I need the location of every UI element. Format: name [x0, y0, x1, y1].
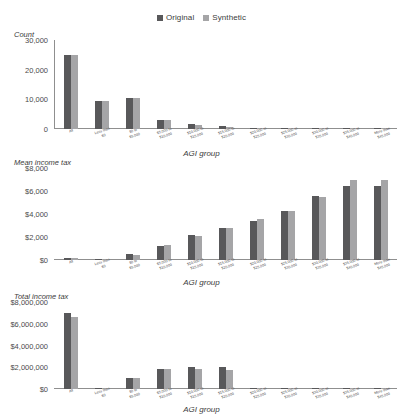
bar-group: [210, 302, 241, 389]
bar-group: [242, 302, 273, 389]
bar-group: [179, 40, 210, 129]
bar-original: [157, 369, 164, 389]
x-axis-tick-labels: AllLess than $0$0 to $5,000$5,000 to $10…: [55, 260, 397, 276]
bar-synthetic: [257, 219, 264, 260]
y-tick-label: $6,000,000: [10, 319, 48, 328]
y-tick-label: $4,000: [25, 210, 48, 219]
bar-group: [273, 302, 304, 389]
bar-group: [148, 40, 179, 129]
bar-original: [219, 228, 226, 260]
bar-original: [64, 55, 71, 129]
y-tick-label: $0: [40, 256, 48, 265]
y-tick-label: $8,000,000: [10, 298, 48, 307]
bar-series-container: [55, 302, 397, 389]
square-swatch-icon: [157, 15, 163, 21]
bar-group: [55, 168, 86, 260]
y-axis: $8,000,000 $6,000,000 $4,000,000 $2,000,…: [0, 302, 52, 389]
bar-synthetic: [102, 101, 109, 129]
bar-original: [188, 367, 195, 389]
bar-original: [343, 186, 350, 260]
legend-item-original: Original: [157, 13, 194, 22]
bar-synthetic: [288, 211, 295, 260]
bar-series-container: [55, 168, 397, 260]
bar-synthetic: [71, 317, 78, 389]
y-tick-label: 10,000: [25, 95, 48, 104]
bar-synthetic: [381, 180, 388, 261]
bar-original: [219, 367, 226, 389]
bar-group: [55, 40, 86, 129]
bar-synthetic: [350, 180, 357, 261]
bar-group: [86, 40, 117, 129]
plot-area: 30,000 20,000 10,000 0: [0, 40, 403, 129]
bar-group: [210, 40, 241, 129]
y-tick-label: $0: [40, 385, 48, 394]
bar-group: [242, 168, 273, 260]
x-axis-tick-labels: AllLess than $0$0 to $5,000$5,000 to $10…: [55, 129, 397, 145]
y-axis: $8,000 $6,000 $4,000 $2,000 $0: [0, 168, 52, 260]
bar-group: [117, 168, 148, 260]
bar-synthetic: [226, 228, 233, 260]
bar-group: [304, 40, 335, 129]
bar-original: [281, 211, 288, 260]
y-axis: 30,000 20,000 10,000 0: [0, 40, 52, 129]
chart-legend: Original Synthetic: [0, 13, 403, 22]
bar-original: [64, 313, 71, 389]
y-tick-label: $4,000,000: [10, 341, 48, 350]
bar-group: [179, 302, 210, 389]
legend-item-synthetic: Synthetic: [203, 13, 246, 22]
y-tick-label: 30,000: [25, 36, 48, 45]
bar-original: [374, 186, 381, 260]
bar-group: [117, 302, 148, 389]
bar-original: [157, 246, 164, 260]
bar-group: [366, 40, 397, 129]
y-tick-label: $8,000: [25, 164, 48, 173]
bar-original: [95, 101, 102, 129]
total-income-tax-chart: Total income tax $8,000,000 $6,000,000 $…: [0, 292, 403, 415]
bar-group: [335, 168, 366, 260]
bar-original: [157, 120, 164, 129]
legend-label: Synthetic: [212, 13, 246, 22]
figure-canvas: Original Synthetic Count 30,000 20,000 1…: [0, 0, 403, 415]
bar-group: [366, 168, 397, 260]
bar-group: [273, 40, 304, 129]
bar-group: [55, 302, 86, 389]
bar-group: [335, 40, 366, 129]
bar-series-container: [55, 40, 397, 129]
plot-area: $8,000,000 $6,000,000 $4,000,000 $2,000,…: [0, 302, 403, 389]
x-axis-title: AGI group: [0, 405, 403, 414]
bar-group: [304, 302, 335, 389]
y-tick-label: $2,000,000: [10, 363, 48, 372]
bar-group: [210, 168, 241, 260]
bar-original: [312, 196, 319, 260]
count-chart: Count 30,000 20,000 10,000 0 AllLess tha…: [0, 30, 403, 155]
y-tick-label: $2,000: [25, 233, 48, 242]
bar-synthetic: [319, 197, 326, 260]
bar-group: [304, 168, 335, 260]
y-tick-label: $6,000: [25, 187, 48, 196]
bar-group: [242, 40, 273, 129]
bar-original: [250, 221, 257, 260]
x-axis-tick-labels: AllLess than $0$0 to $5,000$5,000 to $10…: [55, 389, 397, 405]
bar-group: [86, 168, 117, 260]
x-axis-title: AGI group: [0, 278, 403, 287]
bar-original: [126, 378, 133, 389]
y-tick-label: 0: [44, 125, 48, 134]
mean-income-tax-chart: Mean income tax $8,000 $6,000 $4,000 $2,…: [0, 158, 403, 286]
bar-synthetic: [133, 98, 140, 129]
bar-synthetic: [195, 236, 202, 260]
legend-label: Original: [166, 13, 194, 22]
bar-group: [273, 168, 304, 260]
bar-group: [366, 302, 397, 389]
y-tick-label: 20,000: [25, 65, 48, 74]
bar-group: [117, 40, 148, 129]
square-swatch-icon: [203, 15, 209, 21]
bar-group: [86, 302, 117, 389]
bar-group: [335, 302, 366, 389]
plot-area: $8,000 $6,000 $4,000 $2,000 $0: [0, 168, 403, 260]
bar-synthetic: [71, 55, 78, 129]
bar-original: [126, 98, 133, 129]
bar-group: [179, 168, 210, 260]
bar-group: [148, 302, 179, 389]
bar-group: [148, 168, 179, 260]
x-axis-title: AGI group: [0, 149, 403, 158]
